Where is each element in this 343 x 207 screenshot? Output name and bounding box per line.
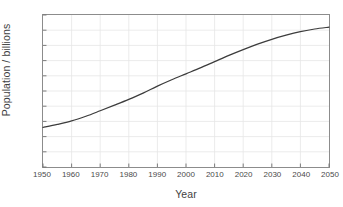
- x-tick-label: 1970: [82, 171, 118, 179]
- x-tick-label: 2040: [283, 171, 319, 179]
- x-tick-label: 2030: [254, 171, 290, 179]
- x-tick-label: 1960: [53, 171, 89, 179]
- plot-area: [42, 14, 330, 168]
- population-growth-chart: Population / billions 012345678910 19501…: [0, 0, 343, 207]
- x-tick-label: 1990: [139, 171, 175, 179]
- x-tick-label: 2050: [312, 171, 343, 179]
- x-tick-label: 2010: [197, 171, 233, 179]
- axis-ticks: [43, 15, 329, 167]
- x-tick-label: 1950: [24, 171, 60, 179]
- x-tick-label: 2000: [168, 171, 204, 179]
- x-axis-title: Year: [42, 188, 330, 200]
- y-axis-title: Population / billions: [0, 0, 14, 147]
- x-tick-label: 2020: [226, 171, 262, 179]
- x-tick-label: 1980: [110, 171, 146, 179]
